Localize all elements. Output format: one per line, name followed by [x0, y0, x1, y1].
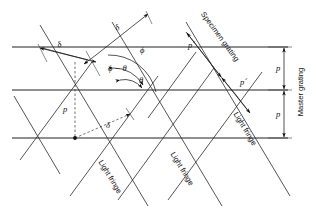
- moire-diagram-figure: δ δ ϕ ϕ − θ θ p δ: [0, 0, 316, 216]
- p-upper-label: p: [275, 63, 280, 73]
- theta-label: θ: [139, 75, 143, 85]
- delta-ext-tick-mid: [86, 51, 100, 76]
- specimen-grating-label: Specimen grating: [199, 10, 241, 63]
- delta-label-top-right: δ: [113, 21, 121, 32]
- light-fringe-lines: [14, 22, 290, 206]
- p-lower-label: p: [275, 109, 280, 119]
- p-prime-upper-label: p´: [187, 40, 195, 50]
- phi-minus-theta-label: ϕ − θ: [108, 63, 127, 73]
- p-prime-upper-arrow-b: [204, 55, 221, 77]
- phi-label: ϕ: [140, 45, 145, 55]
- light-fringe-line-3: [186, 22, 290, 196]
- delta-dimension-top: δ δ: [38, 11, 152, 76]
- specimen-grating-line-5: [148, 52, 196, 118]
- specimen-grating-line-1: [20, 62, 92, 160]
- delta-label-top-left: δ: [56, 39, 63, 50]
- light-fringe-label-3: Light fringe: [232, 110, 259, 147]
- p-prime-dimensions: p´ p´: [186, 32, 250, 113]
- master-grating-dimensions: p p Master grating: [268, 47, 305, 138]
- diagram-canvas: δ δ ϕ ϕ − θ θ p δ: [0, 0, 316, 216]
- light-fringe-line-0: [14, 96, 60, 174]
- p-vertical-label: p: [62, 104, 67, 114]
- light-fringe-label-1: Light fringe: [97, 158, 124, 195]
- delta-arrow-top-left: [40, 48, 72, 56]
- intersection-dot-origin: [73, 136, 77, 140]
- delta-lower-label: δ: [106, 120, 111, 130]
- delta-arrow-top-left-2: [72, 56, 96, 62]
- delta-ext-tick-right: [146, 11, 152, 24]
- p-prime-lower-label: p´: [239, 77, 247, 87]
- light-fringe-line-2: [112, 22, 222, 206]
- angle-arcs: ϕ ϕ − θ θ: [108, 45, 156, 92]
- master-grating-label: Master grating: [296, 68, 305, 117]
- intersection-markers: [73, 136, 77, 140]
